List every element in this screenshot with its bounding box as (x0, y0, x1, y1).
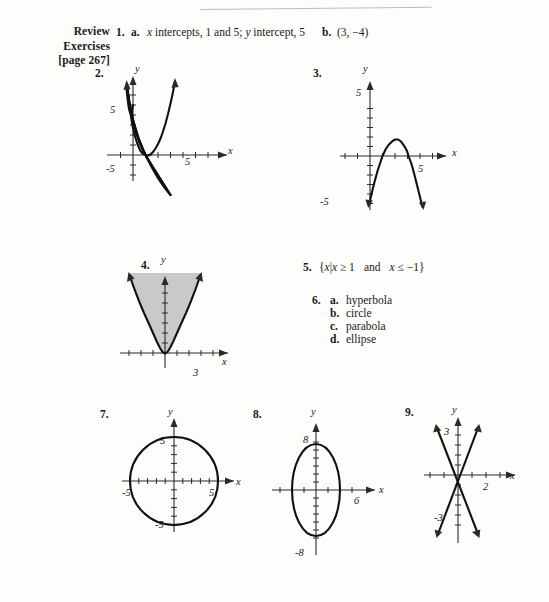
item-5-number: 5. (303, 261, 312, 273)
page-top-rule (85, 7, 547, 10)
item-1-number: 1. (116, 26, 125, 38)
item-6b-text: circle (346, 307, 372, 319)
item-1a-mid2: intercept, 5 (250, 26, 305, 38)
item-6c-label: c. (330, 320, 338, 332)
item-8-number: 8. (253, 408, 262, 420)
item-9-number: 9. (405, 406, 414, 418)
item-6a-text: hyperbola (346, 294, 392, 306)
item-1b-text: (3, −4) (337, 26, 368, 38)
section-header: Review Exercises [page 267] (10, 24, 110, 68)
section-header-line1: Review (10, 24, 110, 39)
graph-9 (415, 410, 530, 550)
graph-7 (118, 412, 240, 534)
graph-8 (262, 412, 387, 557)
graph-4-ylabel: y (161, 254, 166, 265)
item-1a-mid1: intercepts, 1 and 5; (152, 26, 245, 38)
item-5-cond2: ≤ −1 (395, 261, 419, 273)
section-header-line2: Exercises (10, 39, 110, 54)
section-header-line3: [page 267] (10, 53, 110, 68)
graph-4 (120, 265, 240, 370)
item-5-close-brace: } (419, 261, 425, 273)
item-2-number: 2. (95, 67, 104, 79)
graph-2 (105, 68, 240, 183)
item-6-number: 6. (312, 294, 321, 306)
item-5-text: {x|x ≥ 1andx ≤ −1} (319, 261, 424, 273)
item-5-cond1: ≥ 1 (337, 261, 355, 273)
item-6c-text: parabola (346, 320, 386, 332)
item-6b-label: b. (330, 307, 339, 319)
item-7-number: 7. (100, 408, 109, 420)
item-1a-label: a. (131, 26, 140, 38)
item-6a-label: a. (330, 294, 339, 306)
item-3-number: 3. (313, 67, 322, 79)
graph-3 (328, 68, 458, 213)
item-1b-label: b. (322, 26, 331, 38)
item-6d-text: ellipse (346, 333, 376, 345)
answer-key-page: Review Exercises [page 267] 1. a. x inte… (0, 0, 549, 602)
item-6d-label: d. (330, 333, 339, 345)
item-1a-text: x intercepts, 1 and 5; y intercept, 5 (147, 26, 305, 38)
item-5-and: and (355, 261, 390, 273)
